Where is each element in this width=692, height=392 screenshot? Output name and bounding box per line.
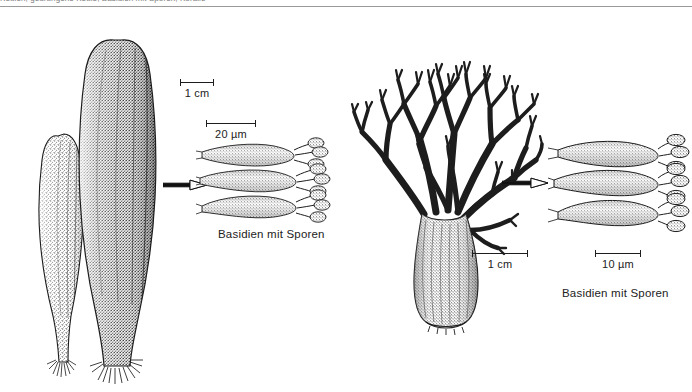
scalebar-coral-label: 1 cm [472, 258, 528, 270]
basidium-2 [196, 164, 330, 198]
scalebar-club: 1 cm [180, 79, 214, 99]
scalebar-basidia-right-bar [595, 250, 641, 257]
scalebar-coral: 1 cm [472, 250, 528, 270]
basidia-detail-right [548, 132, 688, 232]
pointer-arrow-right [502, 174, 550, 196]
scalebar-basidia-right-label: 10 µm [595, 258, 641, 270]
club-fungi-figure [6, 16, 176, 388]
spores-3 [296, 190, 330, 222]
coral-stipe [414, 214, 478, 335]
caption-basidia-left: Basidien mit Sporen [218, 228, 325, 240]
club-large [76, 32, 162, 384]
scalebar-basidia-left-bar [206, 120, 256, 127]
basidium-r3 [548, 192, 689, 232]
scalebar-basidia-left: 20 µm [206, 120, 256, 140]
caption-basidia-right: Basidien mit Sporen [562, 287, 669, 299]
header-divider-rule [0, 6, 692, 7]
basidium-3 [196, 190, 330, 224]
illustration-plate: Keulen, gedrungene Keule, Basidien mit S… [0, 0, 692, 392]
scalebar-basidia-right: 10 µm [595, 250, 641, 270]
scalebar-club-bar [180, 79, 214, 86]
spores-r3 [658, 193, 689, 231]
plate-header-caption: Keulen, gedrungene Keule, Basidien mit S… [0, 0, 692, 4]
basidia-detail-left [196, 138, 336, 224]
basidium-1 [196, 138, 328, 172]
scalebar-club-label: 1 cm [180, 87, 214, 99]
scalebar-coral-bar [472, 250, 528, 257]
